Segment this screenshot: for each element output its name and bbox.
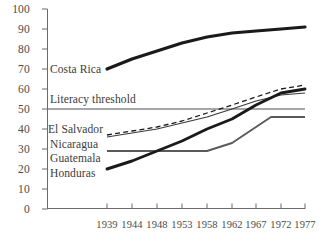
y-axis-ticks — [42, 9, 48, 209]
series-label-guatemala: Guatemala — [50, 152, 101, 164]
series-line-honduras — [107, 89, 305, 169]
series-line-el-salvador — [107, 85, 305, 135]
series-line-guatemala — [107, 117, 305, 151]
series-label-costa-rica: Costa Rica — [50, 63, 101, 75]
literacy-rate-line-chart: 100 90 80 70 60 50 40 30 20 10 0 — [0, 0, 329, 247]
series-label-nicaragua: Nicaragua — [50, 138, 98, 150]
series-line-costa-rica — [107, 27, 305, 69]
series-label-el-salvador: El Salvador — [48, 123, 103, 135]
series-label-literacy-threshold: Literacy threshold — [50, 93, 136, 105]
x-axis-label-1977: 1977 — [288, 219, 322, 230]
series-label-honduras: Honduras — [50, 167, 96, 179]
